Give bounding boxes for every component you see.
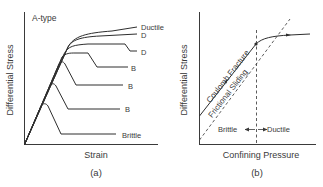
- ductile-label: Ductile: [267, 125, 290, 134]
- panel-a: A-type Ductile D D B B B Brittle Differe…: [5, 12, 164, 178]
- y-axis-label-b: Differential Stress: [179, 44, 189, 115]
- diagram-canvas: A-type Ductile D D B B B Brittle Differe…: [0, 0, 323, 187]
- curve-label-b2: B: [128, 82, 133, 91]
- curve-d1: [25, 34, 138, 145]
- curve-label-d2: D: [141, 48, 147, 57]
- curve-b2: [25, 62, 124, 145]
- y-axis-label-a: Differential Stress: [5, 44, 15, 115]
- x-axis-label-b: Confining Pressure: [223, 150, 300, 160]
- transition-point: [254, 42, 257, 45]
- curve-brittle: [25, 104, 117, 145]
- brittle-label: Brittle: [218, 125, 237, 134]
- curve-label-b3: B: [125, 105, 130, 114]
- panel-b-caption: (b): [251, 167, 263, 178]
- curve-b3: [25, 84, 121, 145]
- curve-label-b1: B: [131, 64, 136, 73]
- frictional-sliding-line: [200, 19, 291, 140]
- stress-strain-curves: [25, 27, 138, 145]
- panel-b: Coulomb Fracture Frictional Sliding Brit…: [179, 12, 316, 178]
- panel-a-title: A-type: [32, 13, 57, 23]
- curve-arrow-2: [286, 33, 291, 36]
- curve-label-brittle: Brittle: [122, 131, 141, 140]
- curve-label-d1: D: [141, 31, 147, 40]
- curve-b1: [25, 53, 129, 145]
- curve-d2: [25, 44, 138, 145]
- panel-a-caption: (a): [90, 167, 102, 178]
- x-axis-label-a: Strain: [84, 150, 108, 160]
